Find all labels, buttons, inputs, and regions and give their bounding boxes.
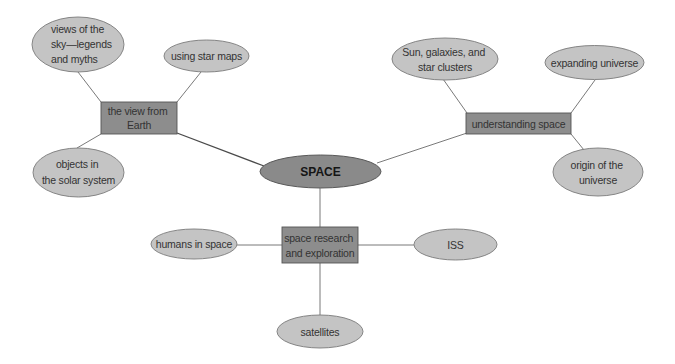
hub-label: understanding space [472,118,566,130]
leaf-expanding-universe: expanding universe [545,46,644,80]
connector-center-to-view-from-earth [177,133,264,166]
label-line: universe [579,174,617,186]
leaf-label: satellites [301,326,340,338]
center-node-space: SPACE [260,155,381,188]
label-line: ISS [447,239,464,251]
leaf-label: expanding universe [551,57,639,69]
leaf-ellipse [392,38,498,80]
label-line: views of the [51,23,104,35]
leaf-origin-of-universe: origin of the universe [553,148,643,196]
label-line: and myths [51,53,98,65]
connector-understanding-space-to-sun-galaxies [443,79,467,113]
leaf-satellites: satellites [277,315,363,348]
label-line: expanding universe [551,57,639,69]
connector-view-from-earth-to-objects-in-solar-system [77,134,101,148]
leaf-label: humans in space [156,238,233,250]
leaf-sun-galaxies-star-clusters: Sun, galaxies, and star clusters [392,38,498,80]
connector-understanding-space-to-expanding-universe [571,80,595,113]
label-line: space research [284,232,353,244]
label-line: the view from [108,105,168,117]
label-line: origin of the [571,159,624,171]
label-line: objects in [56,158,99,170]
leaf-ellipse [553,148,643,196]
leaf-iss: ISS [414,229,497,260]
leaf-views-of-the-sky: views of the sky—legends and myths [32,17,124,72]
label-line: the solar system [42,174,116,186]
leaf-humans-in-space: humans in space [151,229,237,259]
hub-space-research-exploration: space research and exploration [282,227,358,263]
leaf-ellipse [33,148,124,197]
label-line: humans in space [156,238,233,250]
leaf-label: using star maps [171,50,242,62]
center-label: SPACE [300,165,340,179]
leaf-objects-in-solar-system: objects in the solar system [33,148,124,197]
label-line: using star maps [171,50,242,62]
connector-view-from-earth-to-views-of-the-sky [78,72,101,102]
label-line: Sun, galaxies, and [402,46,485,58]
label-line: star clusters [418,61,472,73]
hub-view-from-earth: the view from Earth [101,102,177,134]
concept-map: SPACE the view from Earth understanding … [0,0,675,364]
connector-understanding-space-to-origin-of-universe [571,134,584,150]
hub-understanding-space: understanding space [466,113,571,134]
label-line: and exploration [286,247,355,259]
leaf-using-star-maps: using star maps [164,40,249,72]
label-line: satellites [301,326,340,338]
connector-center-to-understanding-space [377,133,467,163]
leaf-label: ISS [447,239,464,251]
label-line: understanding space [472,118,566,130]
label-line: Earth [127,119,151,131]
connector-view-from-earth-to-using-star-maps [177,72,201,102]
label-line: sky—legends [51,38,112,50]
